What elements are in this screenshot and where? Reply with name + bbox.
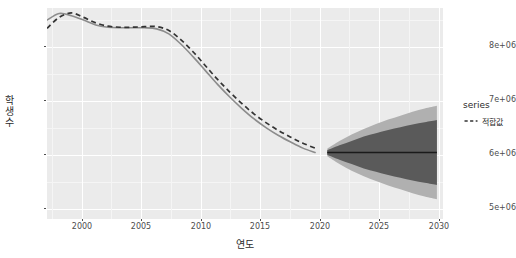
observed-line bbox=[47, 13, 315, 152]
y-tick-mark bbox=[44, 154, 46, 155]
x-tick-label: 2030 bbox=[419, 222, 459, 232]
legend: series 적합값 bbox=[463, 100, 515, 127]
x-tick-label: 2005 bbox=[121, 222, 161, 232]
y-tick-mark bbox=[44, 46, 46, 47]
x-tick-label: 2025 bbox=[359, 222, 399, 232]
fitted-line bbox=[47, 13, 315, 148]
y-tick-label: 6e+06 bbox=[474, 149, 516, 159]
x-tick-label: 2010 bbox=[181, 222, 221, 232]
chart-title bbox=[47, 0, 447, 3]
legend-title: series bbox=[463, 100, 515, 110]
y-tick-mark bbox=[44, 208, 46, 209]
x-tick-label: 2020 bbox=[300, 222, 340, 232]
x-axis-title: 연도 bbox=[47, 236, 443, 251]
x-tick-mark bbox=[82, 219, 83, 221]
plot-panel bbox=[47, 8, 443, 219]
x-tick-label: 2015 bbox=[240, 222, 280, 232]
plot-series-layer bbox=[47, 8, 443, 219]
x-tick-label: 2000 bbox=[62, 222, 102, 232]
x-tick-mark bbox=[320, 219, 321, 221]
x-tick-mark bbox=[379, 219, 380, 221]
y-tick-label: 5e+06 bbox=[474, 203, 516, 213]
x-tick-mark bbox=[260, 219, 261, 221]
chart-root: 5e+06 6e+06 7e+06 8e+06 학생수 2000 2005 20… bbox=[0, 0, 516, 258]
x-tick-mark bbox=[141, 219, 142, 221]
y-axis-title: 학생수 bbox=[2, 95, 16, 128]
x-tick-mark bbox=[201, 219, 202, 221]
legend-item-fitted[interactable]: 적합값 bbox=[463, 115, 515, 127]
y-tick-mark bbox=[44, 100, 46, 101]
legend-key-dashed-line-icon bbox=[463, 115, 479, 127]
y-tick-label: 8e+06 bbox=[474, 41, 516, 51]
x-tick-mark bbox=[439, 219, 440, 221]
legend-item-label: 적합값 bbox=[482, 116, 503, 127]
